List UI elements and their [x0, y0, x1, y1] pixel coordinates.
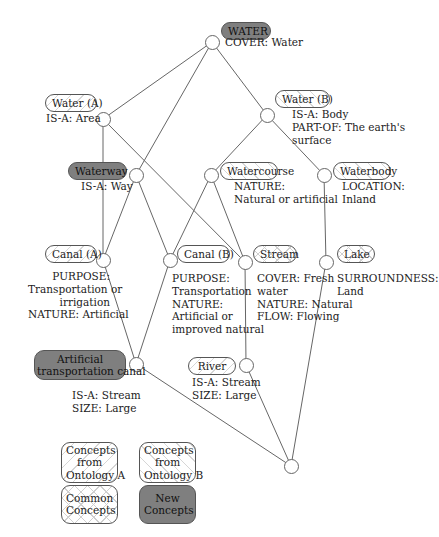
- concept-artificial-canal: Artificial transportation canal: [34, 350, 126, 380]
- props-water: COVER: Water: [225, 36, 303, 49]
- node-watercourse[interactable]: [204, 168, 219, 183]
- props-lake: SURROUNDNESS: Land: [337, 272, 439, 298]
- node-canal-b[interactable]: [163, 253, 178, 268]
- props-waterway: IS-A: Way: [81, 180, 133, 193]
- legend-ontology-a: Concepts from Ontology A: [61, 442, 118, 483]
- concept-canal-b: Canal (B): [177, 245, 230, 263]
- props-canal-b: PURPOSE: Transportation NATURE: Artifici…: [172, 272, 264, 336]
- props-river: IS-A: Stream SIZE: Large: [192, 376, 261, 402]
- concept-watercourse: Watercourse: [220, 162, 278, 180]
- props-watercourse: NATURE: Natural or artificial: [234, 180, 338, 206]
- legend-ontology-b: Concepts from Ontology B: [139, 442, 196, 483]
- node-bottom[interactable]: [284, 459, 299, 474]
- props-water-b: IS-A: Body PART-OF: The earth's surface: [292, 108, 405, 146]
- concept-water-a: Water (A): [45, 94, 97, 112]
- props-waterbody: LOCATION: Inland: [342, 180, 405, 206]
- concept-canal-a: Canal (A): [45, 245, 97, 263]
- node-river[interactable]: [239, 358, 254, 373]
- concept-waterway: Waterway: [68, 162, 127, 180]
- concept-waterbody: Waterbody: [333, 162, 391, 180]
- concept-stream: Stream: [253, 245, 297, 263]
- props-artificial-canal: IS-A: Stream SIZE: Large: [72, 389, 141, 415]
- node-stream[interactable]: [238, 255, 253, 270]
- node-lake[interactable]: [319, 255, 334, 270]
- props-canal-a: PURPOSE: Transportation or irrigation NA…: [28, 270, 110, 321]
- concept-river: River: [188, 357, 236, 375]
- concept-water-b: Water (B): [275, 90, 330, 108]
- legend-common: Common Concepts: [61, 485, 118, 524]
- concept-lake: Lake: [337, 245, 375, 263]
- props-water-a: IS-A: Area: [46, 112, 101, 125]
- node-water-b[interactable]: [260, 108, 275, 123]
- legend-new: New Concepts: [139, 485, 196, 524]
- node-water[interactable]: [205, 35, 220, 50]
